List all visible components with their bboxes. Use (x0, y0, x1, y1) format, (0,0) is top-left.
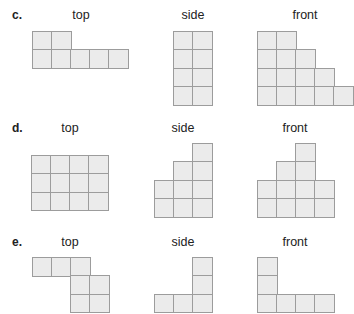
grid-square (89, 275, 110, 295)
grid-square (276, 68, 297, 88)
grid-square (88, 173, 109, 193)
front-view-grid (257, 143, 335, 218)
grid-square (295, 68, 316, 88)
grid-square (192, 31, 213, 51)
grid-square (192, 198, 213, 218)
grid-square (50, 192, 71, 212)
grid-square (276, 86, 297, 106)
grid-square (295, 294, 316, 314)
grid-square (173, 68, 194, 88)
grid-square (295, 198, 316, 218)
grid-square (51, 49, 72, 69)
grid-square (192, 275, 213, 295)
grid-square (173, 180, 194, 200)
grid-square (314, 86, 335, 106)
grid-square (257, 257, 278, 277)
view-label-top: top (61, 235, 78, 249)
grid-square (257, 49, 278, 69)
grid-square (69, 173, 90, 193)
grid-square (257, 294, 278, 314)
grid-square (88, 192, 109, 212)
grid-square (314, 180, 335, 200)
grid-square (51, 257, 72, 277)
top-view-grid (31, 155, 109, 211)
grid-square (88, 155, 109, 175)
grid-square (173, 198, 194, 218)
grid-square (173, 86, 194, 106)
grid-square (50, 155, 71, 175)
grid-square (276, 49, 297, 69)
grid-square (276, 31, 297, 51)
grid-square (69, 192, 90, 212)
grid-square (314, 198, 335, 218)
grid-square (295, 86, 316, 106)
grid-square (192, 257, 213, 277)
grid-square (192, 143, 213, 163)
grid-square (70, 49, 91, 69)
grid-square (32, 257, 53, 277)
view-label-top: top (61, 121, 78, 135)
grid-square (295, 161, 316, 181)
grid-square (276, 161, 297, 181)
grid-square (257, 180, 278, 200)
grid-square (314, 294, 335, 314)
top-view-grid (32, 31, 129, 69)
view-label-front: front (292, 8, 317, 22)
grid-square (257, 68, 278, 88)
grid-square (192, 86, 213, 106)
front-view-grid (257, 31, 354, 106)
view-label-side: side (172, 235, 195, 249)
grid-square (192, 294, 213, 314)
top-view-grid (32, 257, 110, 313)
grid-square (257, 31, 278, 51)
problem-letter: e. (12, 235, 22, 249)
grid-square (32, 49, 53, 69)
grid-square (154, 294, 175, 314)
grid-square (31, 173, 52, 193)
grid-square (69, 155, 90, 175)
grid-square (257, 198, 278, 218)
view-label-side: side (182, 8, 205, 22)
front-view-grid (257, 257, 335, 313)
grid-square (295, 143, 316, 163)
grid-square (192, 180, 213, 200)
problem-letter: c. (12, 8, 22, 22)
grid-square (192, 49, 213, 69)
grid-square (108, 49, 129, 69)
grid-square (70, 275, 91, 295)
side-view-grid (154, 257, 213, 313)
grid-square (50, 173, 71, 193)
grid-square (89, 294, 110, 314)
view-label-top: top (72, 8, 89, 22)
grid-square (31, 155, 52, 175)
grid-square (173, 294, 194, 314)
view-label-front: front (282, 121, 307, 135)
grid-square (333, 86, 354, 106)
grid-square (154, 198, 175, 218)
grid-square (173, 49, 194, 69)
view-label-front: front (282, 235, 307, 249)
grid-square (173, 31, 194, 51)
side-view-grid (154, 143, 213, 218)
grid-square (192, 68, 213, 88)
grid-square (51, 31, 72, 51)
grid-square (295, 49, 316, 69)
grid-square (276, 180, 297, 200)
grid-square (257, 275, 278, 295)
grid-square (32, 31, 53, 51)
grid-square (257, 86, 278, 106)
grid-square (295, 180, 316, 200)
grid-square (154, 180, 175, 200)
grid-square (276, 294, 297, 314)
grid-square (70, 294, 91, 314)
grid-square (70, 257, 91, 277)
view-label-side: side (172, 121, 195, 135)
grid-square (89, 49, 110, 69)
grid-square (31, 192, 52, 212)
grid-square (173, 161, 194, 181)
grid-square (276, 198, 297, 218)
side-view-grid (173, 31, 213, 106)
grid-square (192, 161, 213, 181)
problem-letter: d. (12, 121, 23, 135)
grid-square (314, 68, 335, 88)
